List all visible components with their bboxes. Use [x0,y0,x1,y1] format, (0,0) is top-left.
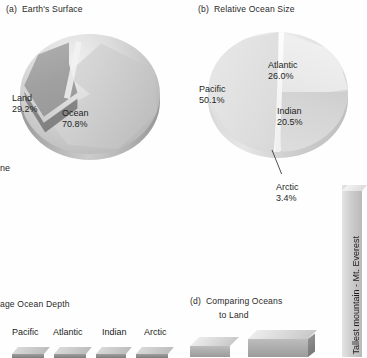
panel-d-block-2-face [248,339,308,357]
panel-d-block-2-side [308,334,315,357]
pie-b-label-indian-value: 20.5% [277,117,303,128]
panel-c-label-indian: Indian [102,327,127,337]
panel-c-bar-indian [96,347,126,357]
panel-c-bar-atlantic [54,347,86,357]
panel-d-block-2 [248,330,308,357]
panel-c-bar-arctic [136,347,168,357]
panel-d-tag: (d) [190,296,201,306]
pie-b-label-pacific-name: Pacific [199,84,226,95]
panel-c-label-arctic: Arctic [144,327,167,337]
panel-d-block-1-face [190,346,230,357]
panel-c-label-pacific: Pacific [12,327,39,337]
pie-a-label-ocean-value: 70.8% [62,119,89,130]
pie-b-label-pacific: Pacific 50.1% [199,84,226,105]
panel-d-title-line1: Comparing Oceans [206,296,282,306]
panel-c-bar-atlantic-top [54,347,92,354]
panel-b-caption: (b)Relative Ocean Size [198,4,295,14]
panel-d-title-line2: to Land [219,310,249,320]
pie-b-label-atlantic-value: 26.0% [268,71,298,82]
pie-b-separator [208,32,348,152]
cropped-text-fragment-left: ne [0,163,10,173]
panel-c-bar-atlantic-face [54,354,86,358]
pie-b-label-atlantic: Atlantic 26.0% [268,60,298,81]
panel-c-label-atlantic: Atlantic [53,327,83,337]
panel-b-tag: (b) [198,4,209,14]
pie-b-label-indian-name: Indian [277,106,303,117]
panel-a-earths-surface: (a)Earth's Surface Land 29.2% Ocean 70.8… [0,0,182,180]
panel-d-block-1 [190,337,230,357]
panel-c-title: age Ocean Depth [0,299,70,309]
panel-d-everest-label: Tallest mountain - Mt. Everest [351,236,361,355]
panel-c-bar-arctic-top [136,347,174,354]
pie-b-label-atlantic-name: Atlantic [268,60,298,71]
pie-a-label-land: Land 29.2% [12,93,38,114]
panel-c-bar-arctic-face [136,354,168,358]
panel-c-bar-indian-top [96,347,132,354]
panel-b-relative-ocean-size: (b)Relative Ocean Size Pacific 50.1% Atl… [182,0,364,180]
panel-c-bar-pacific [12,347,44,357]
panel-c-bar-indian-face [96,354,126,358]
pie-a-label-land-name: Land [12,93,38,104]
panel-c-bar-pacific-face [12,354,44,358]
panel-b-title: Relative Ocean Size [214,4,295,14]
panel-d-caption: (d)Comparing Oceans [190,296,282,306]
panel-c-bar-pacific-top [12,347,50,354]
panel-c-average-ocean-depth: age Ocean Depth Pacific Atlantic Indian … [0,180,182,357]
pie-a-label-ocean-name: Ocean [62,108,89,119]
panel-c-caption: age Ocean Depth [0,299,70,309]
pie-b-label-indian: Indian 20.5% [277,106,303,127]
pie-a-label-ocean: Ocean 70.8% [62,108,89,129]
panel-a-title: Earth's Surface [22,4,83,14]
pie-b-label-pacific-value: 50.1% [199,95,226,106]
panel-a-caption: (a)Earth's Surface [6,4,83,14]
panel-d-title-line2-wrap: to Land [219,310,249,320]
pie-a-label-land-value: 29.2% [12,104,38,115]
panel-d-block-1-top [190,337,239,346]
panel-d-block-2-top [248,330,317,339]
panel-d-comparing-oceans-to-land: (d)Comparing Oceans to Land Tallest moun… [182,180,364,357]
panel-a-tag: (a) [6,4,17,14]
